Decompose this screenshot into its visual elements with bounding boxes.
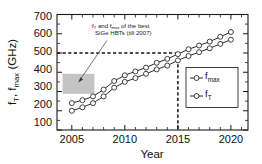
data-point — [144, 65, 149, 70]
y-tick-label-300: 300 — [34, 80, 52, 92]
y-tick-label-400: 400 — [34, 63, 52, 75]
data-point — [197, 43, 202, 48]
data-point — [80, 105, 85, 110]
svg-text:fT, fmax (GHz): fT, fmax (GHz) — [6, 39, 21, 105]
legend-frame — [186, 68, 238, 108]
data-point — [69, 108, 74, 113]
y-tick-label-200: 200 — [34, 98, 52, 110]
data-point — [165, 56, 170, 61]
data-point — [154, 60, 159, 65]
data-point — [80, 98, 85, 103]
y-tick-label-700: 700 — [34, 10, 52, 22]
sige-hbt-range-box — [63, 74, 95, 94]
chart-canvas: 700 600 500 400 300 200 100 fT, fmax (GH… — [0, 0, 262, 164]
annotation-best: of the best — [119, 22, 149, 29]
chart-figure: 700 600 500 400 300 200 100 fT, fmax (GH… — [0, 0, 262, 164]
y-tick-label-100: 100 — [34, 116, 52, 128]
data-point — [165, 63, 170, 68]
data-point — [186, 47, 191, 52]
x-axis-title: Year — [140, 148, 163, 160]
data-point — [69, 101, 74, 106]
y-axis-title: fT, fmax (GHz) — [6, 39, 21, 105]
legend-label-f-t-sub: T — [208, 94, 212, 101]
data-point — [228, 30, 233, 35]
x-tick-labels: 2005 2010 2015 2020 — [60, 133, 244, 145]
data-point — [186, 54, 191, 59]
legend-swatch-marker-f-t — [194, 94, 199, 99]
data-point — [112, 85, 117, 90]
data-point — [144, 71, 149, 76]
data-point — [218, 34, 223, 39]
y-tick-labels: 700 600 500 400 300 200 100 — [34, 10, 52, 128]
x-tick-label-2020: 2020 — [219, 133, 243, 145]
data-point — [91, 101, 96, 106]
x-tick-label-2015: 2015 — [166, 133, 190, 145]
data-point — [197, 50, 202, 55]
data-point — [207, 39, 212, 44]
sige-hbt-annotation: fT and fmax of the best SiGe HBTs (till … — [92, 22, 152, 37]
data-point — [122, 73, 127, 78]
data-point — [218, 41, 223, 46]
chart-legend[interactable]: fmax fT — [186, 68, 238, 108]
x-tick-label-2010: 2010 — [113, 133, 137, 145]
annotation-line2: SiGe HBTs (till 2007) — [95, 29, 152, 36]
data-point — [228, 37, 233, 42]
data-point — [112, 79, 117, 84]
data-point — [154, 67, 159, 72]
x-tick-label-2005: 2005 — [60, 133, 84, 145]
data-point — [133, 76, 138, 81]
data-point — [133, 69, 138, 74]
y-tick-label-600: 600 — [34, 27, 52, 39]
y-axis-title-sub-max: max — [12, 73, 21, 88]
data-point — [175, 58, 180, 63]
data-point — [207, 46, 212, 51]
legend-label-f-max-sub: max — [208, 76, 221, 83]
legend-swatch-marker-f-max — [194, 76, 199, 81]
data-point — [122, 79, 127, 84]
y-tick-label-500: 500 — [34, 45, 52, 57]
data-point — [101, 94, 106, 99]
data-point — [175, 52, 180, 57]
data-point — [91, 94, 96, 99]
data-point — [101, 87, 106, 92]
annotation-and: and f — [96, 22, 112, 29]
y-axis-title-units: (GHz) — [6, 39, 18, 73]
